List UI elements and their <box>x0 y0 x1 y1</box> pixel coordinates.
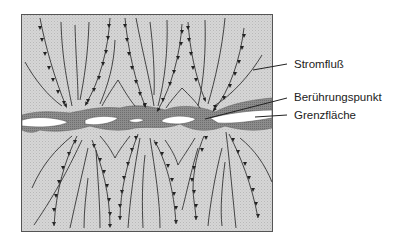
label-contact-point: Berührungspunkt <box>294 92 382 104</box>
label-interface: Grenzfläche <box>294 110 356 122</box>
label-current-flow: Stromfluß <box>294 59 344 71</box>
